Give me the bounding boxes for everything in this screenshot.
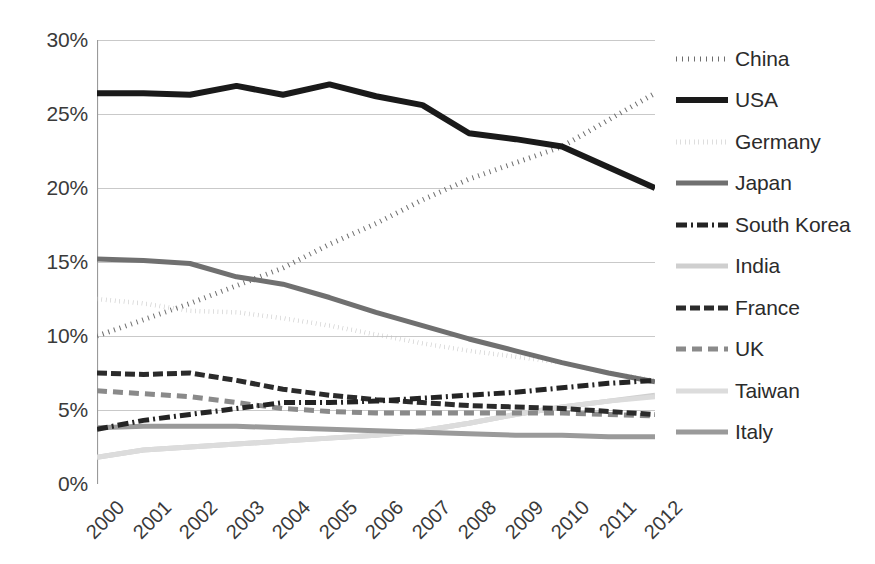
legend-item-china[interactable]: China xyxy=(676,38,875,80)
line-chart: 30%25%20%15%10%5%0% 20002001200220032004… xyxy=(0,0,875,564)
legend-label: Germany xyxy=(735,130,821,154)
legend-item-japan[interactable]: Japan xyxy=(676,163,875,205)
legend-item-usa[interactable]: USA xyxy=(676,80,875,122)
legend-item-france[interactable]: France xyxy=(676,287,875,329)
legend-swatch-china-icon xyxy=(676,52,728,66)
legend-swatch-germany-icon xyxy=(676,135,728,149)
legend-swatch-taiwan-icon xyxy=(676,384,728,398)
legend: ChinaUSAGermanyJapanSouth KoreaIndiaFran… xyxy=(676,38,875,453)
legend-label: Italy xyxy=(735,420,773,444)
legend-swatch-south-korea-icon xyxy=(676,218,728,232)
legend-swatch-uk-icon xyxy=(676,342,728,356)
legend-label: Japan xyxy=(735,171,792,195)
legend-swatch-italy-icon xyxy=(676,425,728,439)
legend-item-south-korea[interactable]: South Korea xyxy=(676,204,875,246)
legend-swatch-india-icon xyxy=(676,259,728,273)
legend-label: China xyxy=(735,47,789,71)
legend-swatch-usa-icon xyxy=(676,93,728,107)
legend-item-india[interactable]: India xyxy=(676,246,875,288)
legend-item-italy[interactable]: Italy xyxy=(676,412,875,454)
legend-label: Taiwan xyxy=(735,379,800,403)
legend-label: India xyxy=(735,254,780,278)
legend-label: USA xyxy=(735,88,778,112)
legend-item-germany[interactable]: Germany xyxy=(676,121,875,163)
legend-label: UK xyxy=(735,337,764,361)
legend-swatch-japan-icon xyxy=(676,176,728,190)
legend-item-uk[interactable]: UK xyxy=(676,329,875,371)
legend-swatch-france-icon xyxy=(676,301,728,315)
legend-label: France xyxy=(735,296,800,320)
legend-label: South Korea xyxy=(735,213,851,237)
legend-item-taiwan[interactable]: Taiwan xyxy=(676,370,875,412)
